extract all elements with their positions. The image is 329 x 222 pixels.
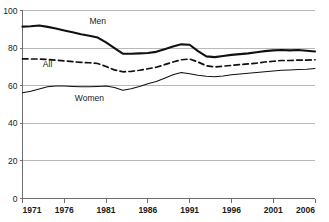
y-axis-ticks-group: 020406080100 bbox=[3, 6, 22, 204]
chart-canvas: 020406080100 197119761981198619911996200… bbox=[0, 0, 329, 222]
x-axis-tick-label-1981: 1981 bbox=[97, 205, 116, 215]
x-axis-tick-label-1976: 1976 bbox=[55, 205, 74, 215]
y-axis-tick-label-0: 0 bbox=[13, 194, 18, 204]
x-axis-ticks-group: 19711976198119861991199620012006 bbox=[23, 199, 316, 215]
y-axis-tick-label-20: 20 bbox=[8, 156, 18, 166]
x-axis-tick-label-1991: 1991 bbox=[180, 205, 199, 215]
series-label-all: All bbox=[43, 59, 53, 69]
x-axis-tick-label-2001: 2001 bbox=[264, 205, 283, 215]
x-axis-tick-label-1996: 1996 bbox=[222, 205, 241, 215]
gridlines-group bbox=[23, 11, 316, 199]
series-line-women bbox=[23, 68, 316, 92]
series-label-women: Women bbox=[75, 93, 104, 103]
series-line-all bbox=[23, 59, 316, 72]
x-axis-tick-label-1986: 1986 bbox=[138, 205, 157, 215]
line-chart: 020406080100 197119761981198619911996200… bbox=[0, 0, 329, 222]
axis-lines-group bbox=[23, 11, 316, 199]
x-axis-tick-label-1971: 1971 bbox=[23, 205, 42, 215]
series-line-men bbox=[23, 26, 316, 58]
series-label-men: Men bbox=[89, 16, 106, 26]
series-group bbox=[23, 26, 316, 93]
y-axis-tick-label-100: 100 bbox=[3, 6, 17, 16]
y-axis-tick-label-80: 80 bbox=[8, 43, 18, 53]
y-axis-tick-label-60: 60 bbox=[8, 81, 18, 91]
y-axis-tick-label-40: 40 bbox=[8, 118, 18, 128]
x-axis-tick-label-2006: 2006 bbox=[296, 205, 315, 215]
